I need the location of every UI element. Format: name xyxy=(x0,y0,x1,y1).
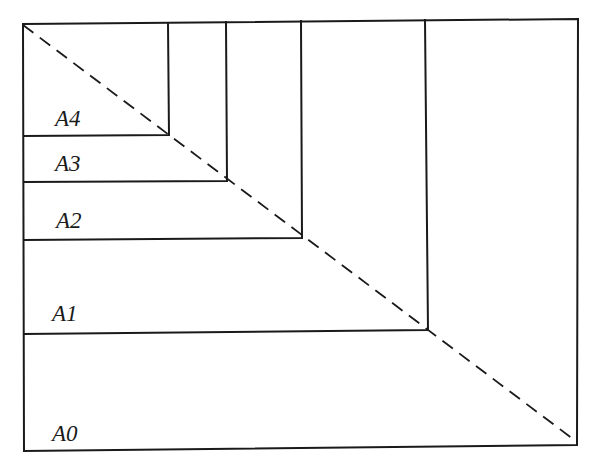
diagonal-dashed-line xyxy=(23,25,577,442)
label-a2: A2 xyxy=(56,209,82,232)
label-a1: A1 xyxy=(52,302,78,325)
label-a4: A4 xyxy=(55,107,81,130)
label-a0: A0 xyxy=(52,422,78,445)
label-a3: A3 xyxy=(55,152,81,175)
paper-sizes-diagram xyxy=(0,0,598,460)
